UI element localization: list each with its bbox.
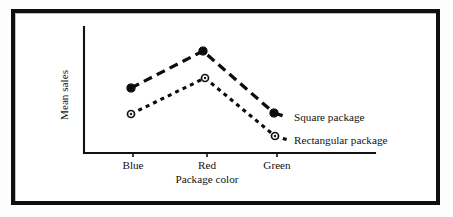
- tick-label-red: Red: [198, 159, 216, 171]
- x-axis-title: Package color: [175, 173, 238, 185]
- data-point-square-blue: [127, 84, 135, 92]
- y-axis-title: Mean sales: [58, 70, 70, 120]
- series-rectangular-package: [128, 75, 289, 141]
- series-square-package: [127, 47, 287, 117]
- legend: Square package Rectangular package: [294, 111, 388, 146]
- x-axis-tick-labels: Blue Red Green: [122, 159, 291, 171]
- tick-label-green: Green: [263, 159, 291, 171]
- figure-page: Blue Red Green Package color Mean sales: [0, 0, 453, 217]
- data-point-rectangular-red: [202, 75, 209, 82]
- line-chart: Blue Red Green Package color Mean sales: [0, 0, 453, 217]
- tick-label-blue: Blue: [122, 159, 143, 171]
- data-point-rectangular-blue: [128, 111, 135, 118]
- series-rectangular-package-line: [131, 78, 275, 136]
- legend-label-square-package: Square package: [294, 111, 365, 123]
- legend-label-rectangular-package: Rectangular package: [294, 134, 388, 146]
- data-point-square-red: [199, 47, 207, 55]
- data-point-square-green: [270, 109, 278, 117]
- series-square-package-line: [131, 51, 274, 113]
- data-point-rectangular-green: [272, 133, 279, 140]
